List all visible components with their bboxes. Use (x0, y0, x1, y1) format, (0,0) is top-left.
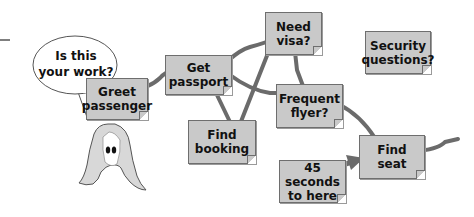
note-find-booking[interactable]: Find booking (188, 120, 256, 164)
note-line-2: visa? (276, 34, 310, 48)
note-frequent-flyer[interactable]: Frequent flyer? (276, 84, 343, 128)
page-curl-icon (313, 46, 322, 55)
connector-flyer-to-seat (340, 105, 375, 138)
note-line-1: Security (370, 39, 426, 53)
note-line-1: Get (187, 61, 211, 75)
note-line-2: passport (169, 75, 228, 89)
note-find-seat[interactable]: Find seat (359, 135, 425, 179)
page-curl-icon (416, 170, 425, 179)
note-security-questions[interactable]: Security questions? (365, 31, 431, 74)
note-45-seconds[interactable]: 45 seconds to here (279, 160, 346, 203)
note-line-2: flyer? (291, 106, 329, 120)
page-curl-icon (247, 155, 256, 164)
note-line-1: Find (377, 143, 406, 157)
note-line-2: booking (195, 142, 249, 156)
left-eye-icon (106, 147, 110, 154)
person-face-icon (79, 124, 146, 190)
note-line-1: Find (207, 128, 236, 142)
connector-passport-to-booking (217, 95, 230, 122)
note-line-1: Need (276, 20, 311, 34)
connector-visa-to-flyer (295, 52, 303, 86)
page-curl-icon (223, 86, 232, 95)
page-curl-icon (139, 111, 148, 120)
note-need-visa[interactable]: Need visa? (265, 12, 322, 55)
note-line-1: Greet (98, 85, 136, 99)
speech-line-1: Is this (38, 48, 114, 64)
note-line-2: to here (288, 189, 337, 203)
page-curl-icon (422, 65, 431, 74)
note-line-1: 45 seconds (280, 161, 345, 189)
note-line-1: Frequent (279, 92, 340, 106)
connector-seat-out (420, 139, 458, 151)
page-curl-icon (334, 119, 343, 128)
speech-bubble-text: Is this your work? (38, 48, 114, 80)
note-line-2: seat (377, 157, 406, 171)
page-curl-icon (337, 194, 346, 203)
note-greet-passenger[interactable]: Greet passenger (86, 78, 148, 120)
note-get-passport[interactable]: Get passport (165, 55, 232, 95)
right-eye-icon (112, 147, 116, 154)
